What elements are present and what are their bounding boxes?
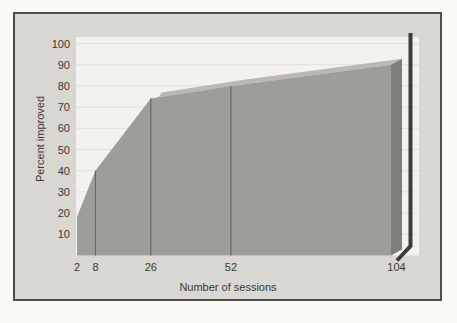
x-tick-label: 8 (92, 261, 98, 273)
y-tick-label: 80 (58, 80, 70, 92)
y-tick-label: 60 (58, 122, 70, 134)
x-tick-label: 2 (74, 261, 80, 273)
y-tick-label: 10 (58, 228, 70, 240)
y-tick-label: 100 (52, 38, 70, 50)
x-axis-title: Number of sessions (179, 281, 277, 293)
psychotherapy-dose-response-figure: 102030405060708090100 282652104 Percent … (0, 0, 457, 323)
x-tick-label: 52 (225, 261, 237, 273)
y-tick-label: 20 (58, 207, 70, 219)
y-tick-label: 30 (58, 186, 70, 198)
y-tick-label: 40 (58, 165, 70, 177)
y-tick-label: 70 (58, 101, 70, 113)
y-tick-label: 90 (58, 59, 70, 71)
x-tick-label: 104 (387, 261, 405, 273)
area-right-bevel (391, 59, 402, 256)
y-tick-label: 50 (58, 144, 70, 156)
y-axis-title: Percent improved (34, 96, 46, 182)
x-tick-label: 26 (145, 261, 157, 273)
dose-response-area-chart: 102030405060708090100 282652104 Percent … (0, 0, 457, 323)
